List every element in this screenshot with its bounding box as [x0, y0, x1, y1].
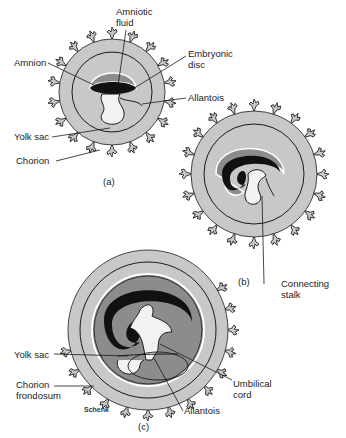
- label-allantois-c: Allantois: [184, 405, 220, 416]
- embryo-development-diagram: [0, 0, 346, 438]
- panel-c-diagram: [59, 250, 239, 421]
- caption-a: (a): [103, 176, 115, 187]
- panel-b-diagram: [179, 99, 329, 249]
- label-allantois-a: Allantois: [188, 92, 224, 103]
- label-yolk-sac-a: Yolk sac: [14, 131, 49, 142]
- artist-signature: Schenk: [84, 406, 109, 413]
- panel-a-diagram: [47, 27, 177, 157]
- label-yolk-sac-c: Yolk sac: [14, 349, 49, 360]
- label-embryonic-disc: Embryonic disc: [188, 48, 233, 70]
- label-amniotic-fluid: Amniotic fluid: [116, 6, 152, 28]
- label-umbilical-cord: Umbilical cord: [233, 378, 272, 400]
- caption-b: (b): [238, 276, 250, 287]
- label-connecting-stalk: Connecting stalk: [281, 278, 329, 300]
- caption-c: (c): [138, 421, 149, 432]
- label-chorion: Chorion: [16, 155, 49, 166]
- label-amnion: Amnion: [14, 57, 46, 68]
- label-chorion-frondosum: Chorion frondosum: [16, 379, 61, 401]
